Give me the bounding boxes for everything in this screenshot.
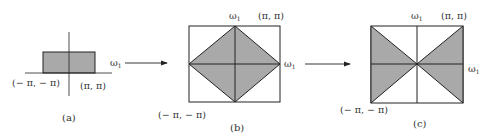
top-label-omega: ω1 [411, 10, 423, 22]
right-label-omega: ω1 [468, 63, 480, 75]
corner-low-label: (− π, − π) [12, 77, 60, 88]
corner-high-label: (π, π) [441, 10, 467, 21]
caption-b: (b) [230, 122, 244, 133]
corner-high-label: (π, π) [258, 10, 284, 21]
top-label-omega: ω1 [229, 10, 241, 22]
axis-label-omega: ω1 [110, 57, 122, 69]
corner-high-label: (π, π) [80, 80, 106, 91]
panel-a: ω1 (− π, − π) (π, π) (a) [12, 32, 122, 123]
corner-low-label: (− π, − π) [158, 109, 206, 120]
panel-b: ω1 (π, π) ω1 (− π, − π) (b) [158, 10, 296, 133]
caption-c: (c) [413, 118, 427, 129]
caption-a: (a) [62, 112, 76, 123]
right-label-omega: ω1 [284, 58, 296, 70]
corner-low-label: (− π, − π) [340, 104, 388, 115]
frequency-region-diagram: ω1 (− π, − π) (π, π) (a) ω1 (π, π) ω1 (−… [0, 0, 491, 139]
panel-c: ω1 (π, π) ω1 (− π, − π) (c) [340, 10, 480, 129]
